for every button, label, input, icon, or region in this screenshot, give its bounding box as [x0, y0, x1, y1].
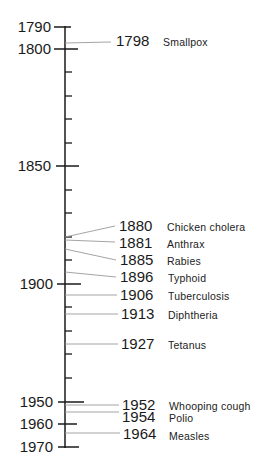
axis-label-1900: 1900	[7, 276, 53, 292]
event-name: Rabies	[167, 255, 201, 267]
axis-label-1850: 1850	[5, 158, 51, 174]
event-year: 1896	[120, 269, 153, 285]
vaccine-timeline: 1790 1800 1850 1900 1950 1960 1970 1798 …	[0, 0, 271, 463]
axis-label-1960: 1960	[7, 416, 53, 432]
event-name: Anthrax	[167, 238, 205, 250]
minor-ticks	[65, 72, 72, 378]
event-year: 1906	[120, 287, 153, 303]
event-year: 1881	[119, 235, 152, 251]
event-name: Diphtheria	[168, 309, 218, 321]
axis-label-1790: 1790	[5, 19, 51, 35]
event-name: Whooping cough	[169, 400, 251, 412]
axis-label-1970: 1970	[7, 439, 53, 455]
axis-label-1800: 1800	[5, 41, 51, 57]
event-year: 1885	[120, 252, 153, 268]
event-name: Typhoid	[168, 272, 206, 284]
event-name: Measles	[169, 430, 210, 442]
event-name: Polio	[169, 412, 193, 424]
axis-label-1950: 1950	[7, 394, 53, 410]
leader-lines	[65, 42, 120, 433]
event-year: 1880	[119, 218, 152, 234]
event-name: Smallpox	[163, 36, 208, 48]
event-year: 1913	[121, 306, 154, 322]
event-name: Tetanus	[168, 339, 206, 351]
event-year: 1954	[122, 409, 155, 425]
event-year: 1798	[116, 33, 149, 49]
event-year: 1964	[123, 426, 156, 442]
event-name: Chicken cholera	[167, 221, 245, 233]
event-name: Tuberculosis	[168, 290, 230, 302]
event-year: 1927	[121, 336, 154, 352]
